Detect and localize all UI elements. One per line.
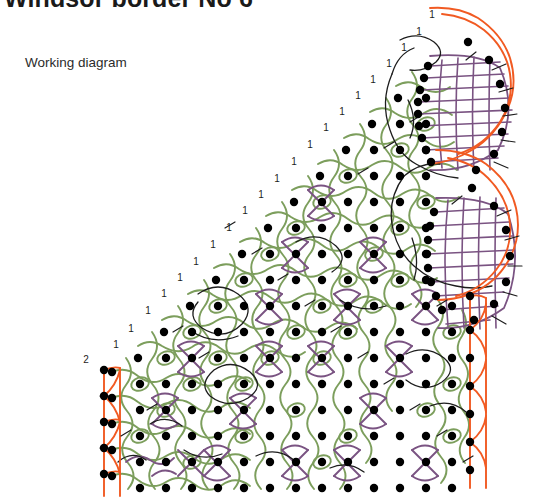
diagram-page: Windsor border No 6 Working diagram xyxy=(0,0,542,502)
label-headside-7: 1 xyxy=(226,222,232,233)
label-headside-2: 1 xyxy=(145,305,151,316)
label-headside-12: 1 xyxy=(307,139,313,150)
label-headside-8: 1 xyxy=(242,205,248,216)
label-headside-10: 1 xyxy=(274,173,280,184)
label-headside-0: 1 xyxy=(113,339,119,350)
label-headside-15: 1 xyxy=(355,90,361,101)
green-thread-paths xyxy=(112,72,469,490)
label-headside-6: 1 xyxy=(210,239,216,250)
label-headside-18: 1 xyxy=(401,42,407,53)
label-headside-9: 1 xyxy=(258,189,264,200)
label-headside-20: 1 xyxy=(429,9,435,20)
label-headside-19: 1 xyxy=(416,26,422,37)
label-headside-14: 1 xyxy=(339,106,345,117)
label-headside-13: 1 xyxy=(323,122,329,133)
label-headside-16: 1 xyxy=(370,74,376,85)
label-headside-17: 1 xyxy=(386,58,392,69)
label-headside-3: 1 xyxy=(161,288,167,299)
label-headside-11: 1 xyxy=(291,156,297,167)
label-headside-4: 1 xyxy=(177,272,183,283)
label-headside-5: 1 xyxy=(193,256,199,267)
label-footside: 2 xyxy=(83,354,89,365)
label-headside-1: 1 xyxy=(128,323,134,334)
bobbin-lace-diagram: 2 1 1 1 1 1 1 1 1 1 1 1 1 1 1 1 1 1 1 1 xyxy=(0,0,542,502)
